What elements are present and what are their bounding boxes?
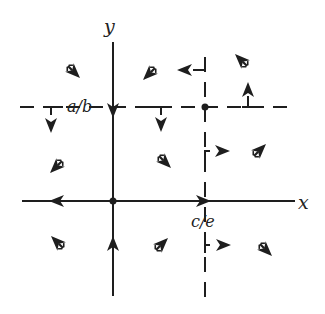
x-axis-label: x — [298, 191, 309, 213]
arrow-down-right-icon — [155, 152, 176, 173]
arrow-up-right-icon — [152, 234, 173, 255]
arrow-down-right-icon — [256, 240, 277, 261]
arrow-right-elbow-icon — [205, 239, 231, 253]
nullcline-label-c-e: c/e — [191, 212, 215, 231]
arrow-down-elbow-icon — [147, 107, 167, 132]
equilibrium-interior-dot — [202, 104, 209, 111]
arrow-down-elbow-icon — [45, 107, 63, 133]
arrow-up-icon — [242, 82, 254, 107]
arrow-up-left-icon — [231, 50, 252, 71]
phase-portrait-diagram: y x a/b c/e — [0, 0, 325, 314]
arrow-up-right-icon — [250, 140, 271, 161]
arrow-up-left-icon — [47, 232, 68, 253]
arrow-right-elbow-icon — [205, 145, 230, 162]
arrow-down-right-icon — [64, 62, 85, 83]
arrow-down-left-icon — [139, 64, 160, 85]
equilibrium-origin-dot — [110, 198, 117, 205]
arrow-left-elbow-icon — [177, 58, 205, 76]
nullcline-label-a-b: a/b — [67, 97, 92, 116]
arrow-down-left-icon — [46, 157, 67, 178]
y-axis-label: y — [103, 15, 115, 37]
